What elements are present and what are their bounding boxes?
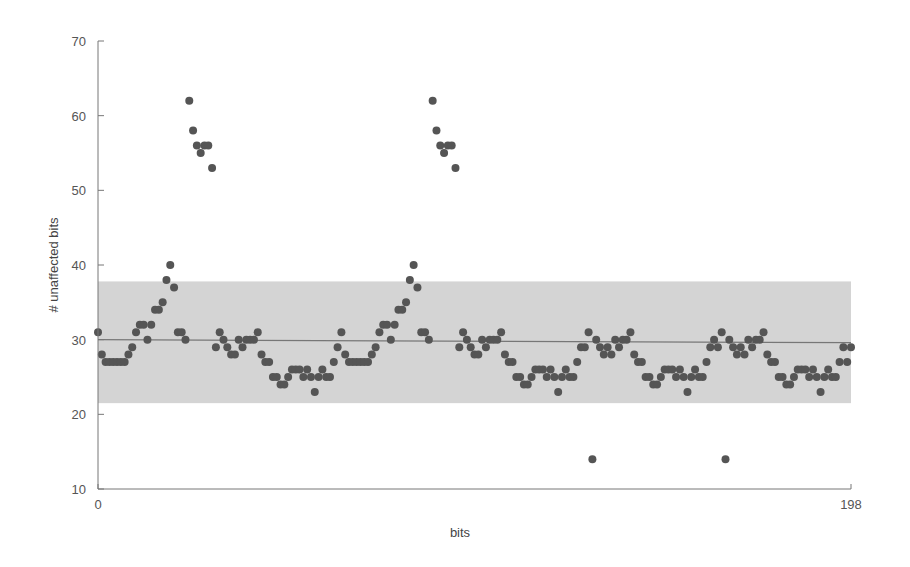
data-point <box>459 328 467 336</box>
data-point <box>737 343 745 351</box>
data-point <box>748 343 756 351</box>
data-point <box>581 343 589 351</box>
data-point <box>296 366 304 374</box>
data-point <box>413 283 421 291</box>
data-point <box>421 328 429 336</box>
data-point <box>330 358 338 366</box>
data-point <box>482 343 490 351</box>
data-point <box>809 366 817 374</box>
x-tick-label: 198 <box>840 497 862 512</box>
data-point <box>273 373 281 381</box>
data-point <box>451 164 459 172</box>
data-point <box>516 373 524 381</box>
data-point <box>779 373 787 381</box>
data-point <box>318 366 326 374</box>
data-point <box>497 328 505 336</box>
data-point <box>223 343 231 351</box>
data-point <box>280 380 288 388</box>
data-point <box>425 336 433 344</box>
data-point <box>147 321 155 329</box>
data-point <box>493 336 501 344</box>
data-point <box>615 343 623 351</box>
data-point <box>162 276 170 284</box>
data-point <box>509 358 517 366</box>
data-point <box>623 336 631 344</box>
data-point <box>733 351 741 359</box>
data-point <box>128 343 136 351</box>
data-point <box>539 366 547 374</box>
data-point <box>839 343 847 351</box>
data-point <box>573 358 581 366</box>
data-point <box>653 380 661 388</box>
data-point <box>239 343 247 351</box>
y-tick-label: 20 <box>72 407 86 422</box>
data-point <box>611 336 619 344</box>
data-point <box>315 373 323 381</box>
data-point <box>212 343 220 351</box>
data-point <box>588 455 596 463</box>
data-point <box>832 373 840 381</box>
data-point <box>307 373 315 381</box>
data-point <box>170 283 178 291</box>
data-point <box>159 298 167 306</box>
data-point <box>702 358 710 366</box>
data-point <box>554 388 562 396</box>
data-point <box>303 366 311 374</box>
data-point <box>604 343 612 351</box>
data-point <box>220 336 228 344</box>
data-point <box>124 351 132 359</box>
data-point <box>140 321 148 329</box>
data-point <box>299 373 307 381</box>
data-point <box>801 366 809 374</box>
data-point <box>524 380 532 388</box>
y-tick-label: 50 <box>72 183 86 198</box>
data-point <box>402 298 410 306</box>
data-point <box>197 149 205 157</box>
data-point <box>687 373 695 381</box>
x-tick-label: 0 <box>94 497 101 512</box>
data-point <box>440 149 448 157</box>
data-point <box>235 336 243 344</box>
data-point <box>668 366 676 374</box>
data-point <box>258 351 266 359</box>
data-point <box>478 336 486 344</box>
data-point <box>208 164 216 172</box>
scatter-chart: 102030405060700198 bits # unaffected bit… <box>0 0 910 567</box>
data-point <box>410 261 418 269</box>
data-point <box>166 261 174 269</box>
data-point <box>547 366 555 374</box>
data-point <box>645 373 653 381</box>
data-point <box>786 380 794 388</box>
data-point <box>756 336 764 344</box>
data-point <box>98 351 106 359</box>
data-point <box>265 358 273 366</box>
data-point <box>710 336 718 344</box>
data-point <box>706 343 714 351</box>
data-point <box>204 142 212 150</box>
y-axis-title: # unaffected bits <box>46 217 61 313</box>
data-point <box>718 328 726 336</box>
data-point <box>699 373 707 381</box>
data-point <box>436 142 444 150</box>
data-point <box>463 336 471 344</box>
data-point <box>467 343 475 351</box>
data-point <box>630 351 638 359</box>
data-point <box>193 142 201 150</box>
data-point <box>254 328 262 336</box>
data-point <box>714 343 722 351</box>
data-point <box>600 351 608 359</box>
data-point <box>596 343 604 351</box>
data-point <box>178 328 186 336</box>
data-point <box>836 358 844 366</box>
data-point <box>375 328 383 336</box>
axes: 102030405060700198 <box>72 34 862 512</box>
data-point <box>143 336 151 344</box>
data-point <box>638 358 646 366</box>
data-point <box>550 373 558 381</box>
data-points <box>94 97 855 463</box>
data-point <box>680 373 688 381</box>
y-tick-label: 30 <box>72 333 86 348</box>
data-point <box>657 373 665 381</box>
data-point <box>771 358 779 366</box>
y-tick-label: 60 <box>72 109 86 124</box>
